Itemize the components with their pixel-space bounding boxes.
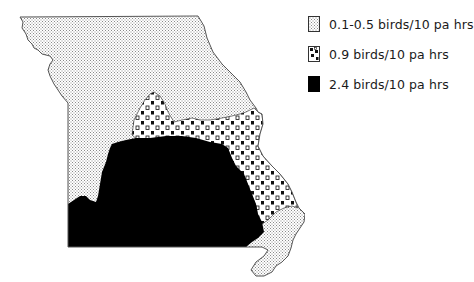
checker-swatch-icon bbox=[308, 46, 320, 62]
stipple-swatch-icon bbox=[308, 16, 320, 32]
legend-item-mid: 0.9 birds/10 pa hrs bbox=[308, 46, 474, 62]
legend-label-low: 0.1-0.5 birds/10 pa hrs bbox=[329, 17, 474, 32]
legend: 0.1-0.5 birds/10 pa hrs 0.9 birds/10 pa … bbox=[308, 16, 474, 106]
legend-label-high: 2.4 birds/10 pa hrs bbox=[329, 77, 449, 92]
legend-item-high: 2.4 birds/10 pa hrs bbox=[308, 76, 474, 92]
legend-item-low: 0.1-0.5 birds/10 pa hrs bbox=[308, 16, 474, 32]
solid-swatch-icon bbox=[308, 76, 320, 92]
legend-label-mid: 0.9 birds/10 pa hrs bbox=[329, 47, 449, 62]
missouri-density-map bbox=[0, 0, 305, 282]
